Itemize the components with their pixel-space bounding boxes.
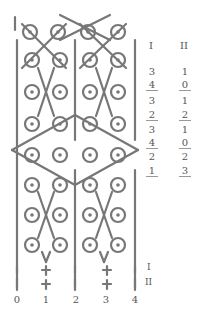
table-cell: 1 — [179, 124, 191, 135]
table-cell: 3 — [146, 66, 158, 77]
table-cell: 2 — [146, 110, 158, 121]
row-marker-II: II — [145, 277, 152, 287]
column-label-1: 1 — [40, 294, 52, 305]
table-cell: 4 — [146, 80, 158, 91]
table-cell: 2 — [179, 110, 191, 121]
table-cell: 1 — [179, 95, 191, 106]
column-label-3: 3 — [100, 294, 112, 305]
table-cell: 0 — [179, 138, 191, 149]
table-cell: 1 — [179, 66, 191, 77]
table-cell: 2 — [146, 151, 158, 162]
column-label-0: 0 — [11, 294, 23, 305]
table-cell: 3 — [146, 124, 158, 135]
column-label-2: 2 — [70, 294, 82, 305]
table-cell: 0 — [179, 80, 191, 91]
table-cell: 1 — [146, 166, 158, 177]
row-marker-I: I — [147, 262, 151, 272]
table-cell: 3 — [179, 166, 191, 177]
table-cell: 2 — [179, 151, 191, 162]
sona-string-figure — [0, 0, 140, 314]
table-header-I: I — [149, 40, 153, 51]
table-header-II: II — [180, 40, 188, 51]
table-cell: 4 — [146, 138, 158, 149]
column-label-4: 4 — [129, 294, 141, 305]
table-cell: 3 — [146, 95, 158, 106]
